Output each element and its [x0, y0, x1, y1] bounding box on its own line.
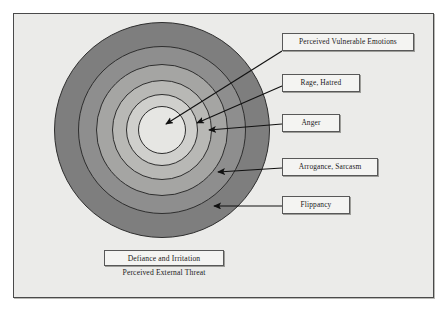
bottom-caption-perceived-external-threat: Perceived External Threat — [98, 268, 230, 277]
callout-label: Rage, Hatred — [301, 79, 342, 86]
callout-label: Perceived Vulnerable Emotions — [299, 38, 397, 45]
callout-rage-hatred[interactable]: Rage, Hatred — [282, 74, 360, 92]
callout-perceived-vulnerable-emotions[interactable]: Perceived Vulnerable Emotions — [282, 33, 414, 51]
bottom-label-text: Defiance and Irritation — [128, 254, 201, 263]
bottom-label-defiance-and-irritation[interactable]: Defiance and Irritation — [104, 250, 224, 266]
diagram-page: Perceived Vulnerable Emotions Rage, Hatr… — [0, 0, 446, 315]
callout-anger[interactable]: Anger — [282, 114, 340, 132]
callout-label: Flippancy — [301, 201, 332, 208]
callout-label: Anger — [301, 119, 320, 126]
callout-arrogance-sarcasm[interactable]: Arrogance, Sarcasm — [282, 158, 378, 176]
callout-label: Arrogance, Sarcasm — [299, 163, 362, 170]
ring-core-perceived-vulnerable-emotions — [138, 106, 186, 154]
callout-flippancy[interactable]: Flippancy — [282, 196, 350, 214]
